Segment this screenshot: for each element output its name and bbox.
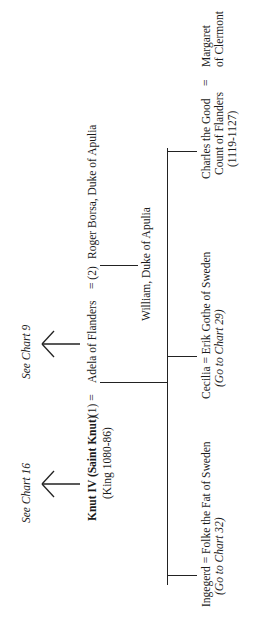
second-marriage-marker: = (2) (86, 266, 98, 289)
cecilia-label: Cecilia = Erik Gothe of Sweden (200, 252, 212, 399)
see-chart-9-label: See Chart 9 (20, 325, 32, 379)
first-marriage-marker: (1) = (86, 394, 98, 417)
genealogy-chart: See Chart 16 See Chart 9 Knut IV (Saint … (0, 0, 258, 619)
margaret-name: Margaret (200, 25, 212, 67)
marriage-descent-line (100, 382, 168, 383)
charles-the-good-title: Count of Flanders (213, 92, 225, 175)
william-duke-of-apulia: William, Duke of Apulia (140, 207, 152, 321)
arrow-up-icon (40, 467, 82, 501)
adela-of-flanders: Adela of Flanders (86, 301, 98, 383)
charles-marriage-marker: = (200, 80, 212, 87)
cecilia-chart-ref: (Go to Chart 29) (213, 309, 225, 387)
arrow-up-icon (40, 327, 82, 361)
knut-iv-name: Knut IV (Saint Knut) (86, 415, 98, 521)
cecilia-connector (167, 356, 197, 357)
see-chart-16-label: See Chart 16 (20, 463, 32, 523)
william-connector (100, 265, 138, 266)
margaret-of-clermont: of Clermont (213, 11, 225, 67)
ingegerd-connector (167, 575, 197, 576)
sibling-bar (167, 148, 168, 585)
charles-connector (167, 151, 197, 152)
roger-borsa: Roger Borsa, Duke of Apulia (86, 125, 98, 259)
ingegerd-label: Ingegerd = Folke the Fat of Sweden (200, 441, 212, 607)
ingegerd-chart-ref: (Go to Chart 32) (213, 517, 225, 595)
charles-the-good-dates: (1119-1127) (226, 111, 238, 167)
charles-the-good-name: Charles the Good (200, 99, 212, 179)
knut-iv-reign: (King 1080-86) (101, 427, 113, 499)
